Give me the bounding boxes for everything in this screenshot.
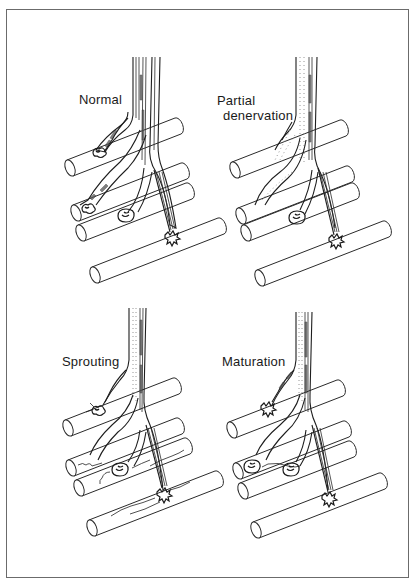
panel-normal: Normal <box>63 57 227 285</box>
panel-maturation: Maturation <box>222 312 387 540</box>
panel-label-partial: Partial <box>217 93 255 108</box>
panel-label-normal: Normal <box>79 92 122 107</box>
nerve-regeneration-diagram: Normal Partial denervation <box>0 0 415 586</box>
panel-partial-denervation: Partial denervation <box>217 57 391 288</box>
panel-label-denervation: denervation <box>223 108 293 123</box>
panel-label-maturation: Maturation <box>222 354 285 369</box>
panel-label-sprouting: Sprouting <box>62 354 119 369</box>
panel-sprouting: Sprouting <box>61 308 224 538</box>
